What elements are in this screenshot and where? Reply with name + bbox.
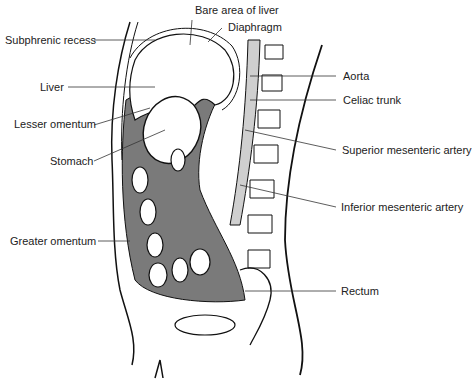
rectum	[240, 268, 271, 345]
posterior-body-wall	[285, 45, 322, 375]
label-stomach: Stomach	[50, 155, 93, 168]
label-rectum: Rectum	[341, 285, 379, 298]
label-greater-omentum: Greater omentum	[10, 235, 96, 248]
label-superior-mesenteric-artery: Superior mesenteric artery	[342, 144, 472, 157]
label-lesser-omentum: Lesser omentum	[14, 118, 96, 131]
label-bare-area-of-liver: Bare area of liver	[195, 4, 279, 17]
bladder	[175, 315, 235, 335]
label-diaphragm: Diaphragm	[228, 21, 282, 34]
label-liver: Liver	[40, 81, 64, 94]
label-subphrenic-recess: Subphrenic recess	[5, 34, 96, 47]
label-inferior-mesenteric-artery: Inferior mesenteric artery	[341, 201, 463, 214]
label-celiac-trunk: Celiac trunk	[343, 94, 401, 107]
label-aorta: Aorta	[343, 70, 369, 83]
